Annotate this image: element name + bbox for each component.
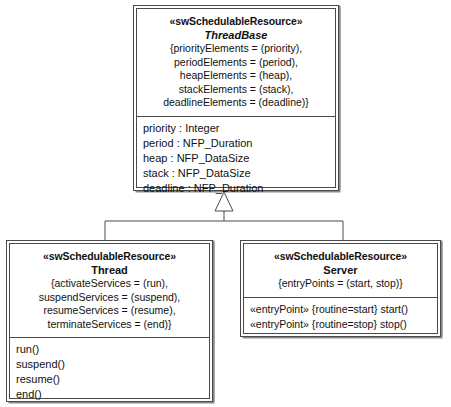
server-class-name: Server — [250, 263, 431, 277]
threadbase-attributes-compartment: priority : Integer period : NFP_Duration… — [137, 116, 335, 201]
server-header-compartment: «swSchedulableResource» Server {entryPoi… — [244, 244, 437, 297]
thread-stereotype: «swSchedulableResource» — [16, 250, 203, 263]
server-operation: «entryPoint» {routine=start} start() — [250, 302, 431, 317]
thread-operation: run() — [16, 342, 203, 357]
server-stereotype: «swSchedulableResource» — [250, 250, 431, 263]
threadbase-attribute: heap : NFP_DataSize — [143, 151, 329, 166]
class-box-server[interactable]: «swSchedulableResource» Server {entryPoi… — [240, 240, 441, 337]
threadbase-tagged-values: {priorityElements = (priority), periodEl… — [143, 42, 329, 110]
server-operations-compartment: «entryPoint» {routine=start} start() «en… — [244, 297, 437, 337]
threadbase-attribute: period : NFP_Duration — [143, 136, 329, 151]
class-box-server-inner: «swSchedulableResource» Server {entryPoi… — [243, 243, 438, 334]
class-box-threadbase-inner: «swSchedulableResource» ThreadBase {prio… — [136, 8, 336, 188]
thread-operation: end() — [16, 387, 203, 402]
class-box-thread-inner: «swSchedulableResource» Thread {activate… — [9, 243, 210, 399]
threadbase-attribute: deadline : NFP_Duration — [143, 181, 329, 196]
uml-class-diagram: «swSchedulableResource» ThreadBase {prio… — [0, 0, 451, 407]
thread-header-compartment: «swSchedulableResource» Thread {activate… — [10, 244, 209, 337]
threadbase-header-compartment: «swSchedulableResource» ThreadBase {prio… — [137, 9, 335, 116]
class-box-thread[interactable]: «swSchedulableResource» Thread {activate… — [6, 240, 213, 402]
thread-class-name: Thread — [16, 263, 203, 277]
thread-tagged-values: {activateServices = (run), suspendServic… — [16, 277, 203, 331]
threadbase-attribute: priority : Integer — [143, 121, 329, 136]
class-box-threadbase[interactable]: «swSchedulableResource» ThreadBase {prio… — [133, 5, 339, 191]
thread-operations-compartment: run() suspend() resume() end() — [10, 337, 209, 407]
server-tagged-values: {entryPoints = (start, stop)} — [250, 277, 431, 291]
server-operation: «entryPoint» {routine=stop} stop() — [250, 317, 431, 332]
threadbase-attribute: stack : NFP_DataSize — [143, 166, 329, 181]
threadbase-class-name: ThreadBase — [143, 28, 329, 42]
thread-operation: suspend() — [16, 357, 203, 372]
thread-operation: resume() — [16, 372, 203, 387]
threadbase-stereotype: «swSchedulableResource» — [143, 15, 329, 28]
